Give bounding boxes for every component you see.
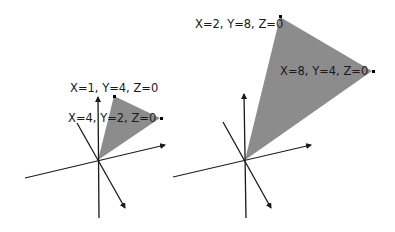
- right-triangle: [245, 17, 372, 160]
- left-x-axis: [25, 145, 165, 178]
- right-vertex-marker-2: [372, 70, 375, 73]
- right-vertex-label-2: X=8, Y=4, Z=0: [280, 66, 368, 78]
- diagram-canvas: [0, 0, 395, 232]
- left-vertex-label-2: X=4, Y=2, Z=0: [68, 113, 156, 125]
- left-vertex-marker-1: [113, 95, 116, 98]
- right-x-axis: [173, 145, 311, 177]
- left-triangle: [98, 96, 160, 160]
- right-vertex-label-1: X=2, Y=8, Z=0: [195, 19, 283, 31]
- right-diagram: [173, 15, 375, 218]
- left-vertex-label-1: X=1, Y=4, Z=0: [70, 83, 158, 95]
- right-y-axis: [244, 94, 246, 218]
- left-vertex-marker-2: [160, 117, 163, 120]
